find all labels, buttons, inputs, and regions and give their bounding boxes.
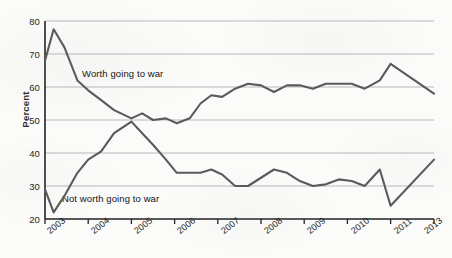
chart-figure: Percent 80 70 60 50 40 30 20 2003 2004 2… <box>0 0 452 258</box>
gridlines <box>45 21 434 186</box>
line-not-worth-going-to-war <box>45 122 434 213</box>
data-series <box>45 29 434 212</box>
line-worth-going-to-war <box>45 29 434 123</box>
plot-area <box>0 0 452 258</box>
